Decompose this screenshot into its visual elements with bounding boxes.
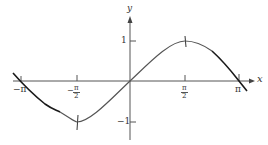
- tick-label-y-neg-one: −1: [117, 117, 130, 126]
- x-axis-label: x: [257, 74, 263, 84]
- tick-label-neg-half-pi: π 2: [73, 85, 80, 100]
- y-axis-label: y: [127, 4, 132, 13]
- tick-label-half-pi: π 2: [181, 85, 188, 100]
- sine-graph: [0, 0, 268, 145]
- tick-label-neg-pi: −π: [13, 85, 26, 94]
- tick-label-pi: π: [235, 85, 241, 94]
- sine-curve-right: [212, 51, 247, 91]
- tick-label-y-one: 1: [121, 36, 127, 45]
- x-axis-arrow-icon: [249, 79, 255, 84]
- fraction-denominator: 2: [181, 93, 188, 100]
- y-axis-arrow-icon: [128, 16, 133, 23]
- fraction-denominator: 2: [73, 93, 80, 100]
